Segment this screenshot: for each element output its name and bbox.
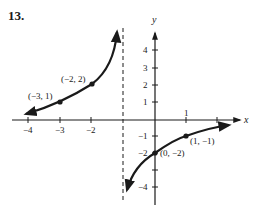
point-marker [89,81,94,86]
point-marker [152,150,157,155]
y-tick-label: −2 [138,148,148,158]
y-tick-label: −4 [138,182,148,192]
y-tick-label: −1 [138,131,148,141]
point-marker [183,133,188,138]
y-tick-label: 3 [143,63,148,73]
y-tick-label: 2 [143,80,148,90]
left-branch-curve [26,32,117,114]
point-marker [57,99,62,104]
x-axis-label: x [243,114,249,125]
graph: 13. x −4 −3 −2 1 y 4 3 2 1 −1 −2 −4 [0,0,259,221]
problem-number: 13. [8,8,24,23]
point-label: (0, −2) [160,148,185,158]
point-label: (−2, 2) [61,74,86,84]
x-tick-label: −4 [23,125,33,135]
x-axis: x −4 −3 −2 1 [12,108,249,135]
y-tick-label: 4 [143,45,148,55]
y-axis-label: y [151,14,157,25]
x-tick-label: 1 [184,108,189,118]
x-tick-label: −3 [55,125,65,135]
y-tick-label: 1 [143,97,148,107]
point-label: (−3, 1) [28,91,53,101]
y-axis: y 4 3 2 1 −1 −2 −4 [138,14,158,205]
x-tick-label: −2 [86,125,96,135]
point-label: (1, −1) [190,136,215,146]
